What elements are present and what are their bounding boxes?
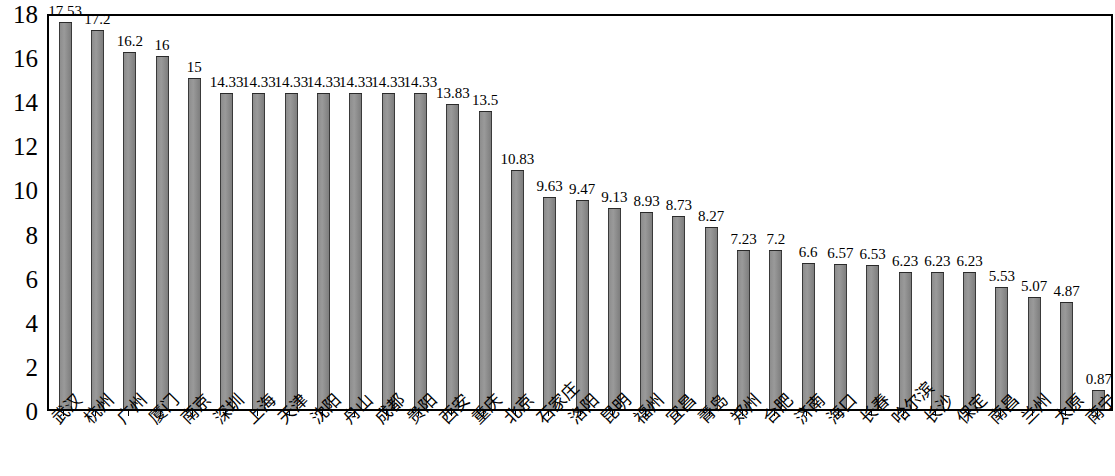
bar[interactable] [672,216,685,409]
bar-slot: 9.13 [608,16,621,409]
bar-value-label: 14.33 [242,75,276,90]
bar-value-label: 14.33 [371,75,405,90]
bar[interactable] [59,22,72,409]
bar[interactable] [866,265,879,409]
bar-slot: 14.33 [220,16,233,409]
y-axis-tick-label: 10 [13,178,38,203]
bar[interactable] [995,287,1008,409]
bar-slot: 6.6 [802,16,815,409]
bar-value-label: 6.23 [924,254,950,269]
bar[interactable] [317,93,330,409]
bar-slot: 4.87 [1060,16,1073,409]
bar-value-label: 15 [187,60,202,75]
y-axis-tick-label: 14 [13,90,38,115]
bar-value-label: 8.73 [666,198,692,213]
bar[interactable] [640,212,653,409]
bar[interactable] [769,250,782,409]
bar[interactable] [963,272,976,409]
bar[interactable] [123,52,136,409]
bar-value-label: 9.63 [537,179,563,194]
y-axis-tick-label: 12 [13,134,38,159]
bar-slot: 14.33 [382,16,395,409]
bar-value-label: 17.2 [84,12,110,27]
bar-value-label: 8.27 [698,209,724,224]
bar[interactable] [834,264,847,409]
y-axis-tick-label: 8 [26,222,39,247]
bar[interactable] [188,78,201,409]
y-axis: 024681012141618 [0,0,46,476]
x-axis: 武汉杭州广州厦门南京深圳上海天津沈阳舟山成都贵阳西安重庆北京石家庄洛阳昆明福州宜… [47,411,1113,476]
bar-slot: 16 [156,16,169,409]
bar-slot: 15 [188,16,201,409]
bar-slot: 16.2 [123,16,136,409]
bar-slot: 10.83 [511,16,524,409]
bar-value-label: 14.33 [210,75,244,90]
bar-value-label: 0.87 [1086,372,1112,387]
bar-value-label: 4.87 [1053,284,1079,299]
bar-slot: 6.53 [866,16,879,409]
bar[interactable] [382,93,395,409]
bar-slot: 6.57 [834,16,847,409]
bar-value-label: 16.2 [117,34,143,49]
bar-value-label: 16 [155,38,170,53]
bar[interactable] [414,93,427,409]
bar-slot: 17.2 [91,16,104,409]
bar-slot: 14.33 [285,16,298,409]
bar-slot: 13.83 [446,16,459,409]
bar-value-label: 10.83 [501,152,535,167]
bar-value-label: 6.53 [860,247,886,262]
bar-slot: 13.5 [479,16,492,409]
bar-value-label: 6.6 [799,245,818,260]
bar[interactable] [576,200,589,409]
y-axis-tick-label: 0 [26,399,39,424]
bar-value-label: 6.57 [827,246,853,261]
bar-slot: 14.33 [252,16,265,409]
bar-slot: 6.23 [899,16,912,409]
bar-slot: 7.2 [769,16,782,409]
bar-slot: 8.93 [640,16,653,409]
y-axis-tick-label: 2 [26,354,39,379]
bar-value-label: 8.93 [633,194,659,209]
bar[interactable] [285,93,298,409]
bar-value-label: 6.23 [957,254,983,269]
bar-slot: 9.63 [543,16,556,409]
bar-value-label: 14.33 [404,75,438,90]
y-axis-tick-label: 6 [26,266,39,291]
bar[interactable] [705,227,718,409]
y-axis-tick-label: 16 [13,46,38,71]
plot-area: 17.5317.216.2161514.3314.3314.3314.3314.… [47,14,1113,411]
y-axis-tick-label: 18 [13,2,38,27]
bar-value-label: 6.23 [892,254,918,269]
bar-value-label: 5.53 [989,269,1015,284]
bar[interactable] [479,111,492,409]
bar-value-label: 14.33 [307,75,341,90]
bar[interactable] [252,93,265,409]
bar-value-label: 17.53 [48,4,82,19]
bars-layer: 17.5317.216.2161514.3314.3314.3314.3314.… [49,16,1111,409]
bar-slot: 8.73 [672,16,685,409]
bar[interactable] [91,30,104,409]
bar-slot: 9.47 [576,16,589,409]
bar[interactable] [802,263,815,409]
bar-slot: 6.23 [963,16,976,409]
bar-value-label: 9.47 [569,182,595,197]
bar-value-label: 14.33 [274,75,308,90]
bar[interactable] [220,93,233,409]
bar-value-label: 13.83 [436,86,470,101]
bar[interactable] [349,93,362,409]
bar-chart: 024681012141618 17.5317.216.2161514.3314… [0,0,1115,476]
bar[interactable] [543,197,556,409]
bar[interactable] [899,272,912,409]
bar[interactable] [511,170,524,409]
bar-slot: 0.87 [1092,16,1105,409]
bar[interactable] [608,208,621,409]
bar-slot: 14.33 [349,16,362,409]
bar[interactable] [156,56,169,409]
bar-slot: 6.23 [931,16,944,409]
bar[interactable] [737,250,750,409]
bar[interactable] [446,104,459,409]
bar-slot: 5.07 [1028,16,1041,409]
bar-value-label: 14.33 [339,75,373,90]
bar-slot: 17.53 [59,16,72,409]
bar-slot: 14.33 [414,16,427,409]
